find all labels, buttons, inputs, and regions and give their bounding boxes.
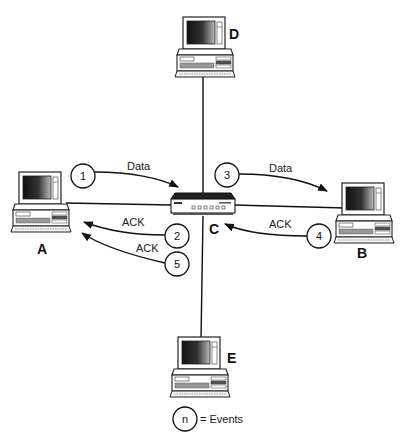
event-label: ACK: [122, 216, 145, 228]
cable-c-e: [201, 216, 203, 340]
legend-text: = Events: [200, 413, 244, 425]
event-4: 4 ACK: [225, 218, 331, 248]
hub-icon: [171, 193, 235, 215]
event-number: 2: [174, 230, 180, 242]
event-1: 1 Data: [71, 160, 178, 188]
node-label-b: B: [357, 245, 367, 261]
cable-a-c: [66, 203, 172, 205]
arrow-icon: [225, 224, 307, 236]
star-network-diagram: C D A B E 1 Data 2 ACK 5 ACK 3 Data: [0, 0, 409, 446]
arrow-icon: [239, 174, 327, 191]
node-label-d: D: [229, 26, 239, 42]
node-label-a: A: [37, 241, 47, 257]
event-3: 3 Data: [215, 162, 327, 191]
computer-icon: [175, 17, 235, 77]
event-number: 4: [316, 230, 322, 242]
event-label: Data: [127, 160, 151, 172]
cable-c-b: [234, 205, 345, 208]
legend-symbol: n: [182, 413, 188, 425]
computer-icon: [170, 337, 230, 397]
event-number: 5: [174, 258, 180, 270]
computer-icon: [11, 172, 71, 232]
event-label: Data: [269, 162, 293, 174]
event-label: ACK: [136, 242, 159, 254]
arrow-icon: [95, 172, 178, 187]
hub-label: C: [209, 221, 219, 237]
node-label-e: E: [227, 350, 236, 366]
event-number: 1: [80, 170, 86, 182]
legend: n = Events: [173, 407, 244, 431]
event-label: ACK: [269, 218, 292, 230]
computer-icon: [334, 183, 394, 243]
event-number: 3: [224, 169, 230, 181]
